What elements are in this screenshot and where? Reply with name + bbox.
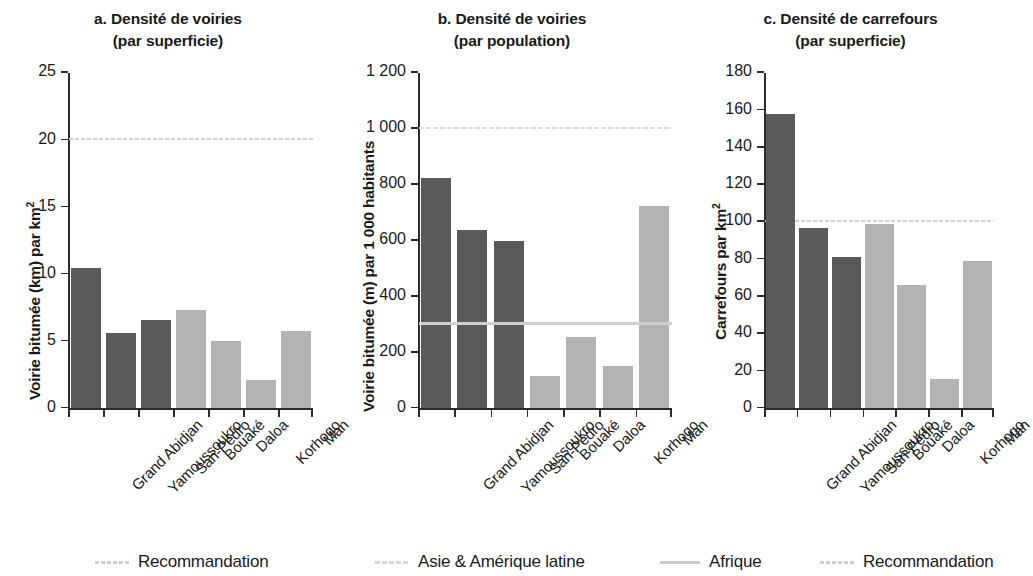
- panel-c-x-tick: [895, 410, 897, 417]
- panel-c-title-line2: (par superficie): [688, 30, 1013, 52]
- panel-c-y-tick: 160: [757, 109, 764, 111]
- bar[interactable]: [799, 228, 828, 409]
- panel-a-plot-area: 0510152025: [68, 73, 313, 410]
- legend-item[interactable]: Afrique: [660, 552, 761, 572]
- panel-b-y-tick: 200: [411, 351, 418, 353]
- panel-b-y-tick: 600: [411, 239, 418, 241]
- panel-b-y-tick: 0: [411, 407, 418, 409]
- panel-c-y-tick: 140: [757, 146, 764, 148]
- bar[interactable]: [421, 178, 451, 409]
- bar[interactable]: [246, 380, 276, 408]
- panel-b-reference-line-afrique: [419, 322, 672, 325]
- panel-b-title: b. Densité de voiries (par population): [336, 8, 688, 52]
- panel-c-y-tick-label: 120: [725, 174, 752, 192]
- legend-item-label: Afrique: [709, 552, 761, 572]
- panel-b-x-tick: [563, 410, 565, 417]
- panel-b-reference-line-asie: [419, 127, 672, 129]
- panel-a-y-tick-label: 10: [38, 263, 56, 281]
- panel-a-title: a. Densité de voiries (par superficie): [0, 8, 336, 52]
- panel-b-y-axis-label: Voirie bitumée (m) par 1 000 habitants: [360, 141, 378, 412]
- panel-c-x-tick: [797, 410, 799, 417]
- panel-b-title-line1: b. Densité de voiries: [438, 10, 587, 27]
- panel-c-y-tick: 0: [757, 407, 764, 409]
- panel-c-y-tick-label: 40: [734, 323, 752, 341]
- panel-a-y-tick: 5: [61, 340, 68, 342]
- panel-c-y-tick: 60: [757, 295, 764, 297]
- panel-b-x-tick: [454, 410, 456, 417]
- panel-c-y-tick-label: 0: [743, 397, 752, 415]
- panel-b-x-tick: [527, 410, 529, 417]
- panel-c-y-tick-label: 60: [734, 286, 752, 304]
- legend-item[interactable]: Recommandation: [820, 552, 993, 572]
- panel-b-y-tick-label: 800: [379, 174, 406, 192]
- panel-b-plot-area: 02004006008001 0001 200: [418, 73, 672, 410]
- bar[interactable]: [494, 241, 524, 409]
- panel-b-y-tick-label: 1 200: [366, 62, 406, 80]
- panel-a-y-tick-label: 15: [38, 196, 56, 214]
- bar[interactable]: [530, 376, 560, 408]
- panel-a-reference-line-reco: [69, 138, 313, 140]
- panel-c-y-tick: 120: [757, 183, 764, 185]
- panel-b-y-tick-label: 600: [379, 230, 406, 248]
- bar[interactable]: [766, 114, 795, 408]
- panel-b-y-tick-label: 1 000: [366, 118, 406, 136]
- panel-c-y-tick-label: 180: [725, 62, 752, 80]
- legend-item-label: Recommandation: [863, 552, 993, 572]
- bar[interactable]: [963, 261, 992, 408]
- bar[interactable]: [281, 331, 311, 409]
- legend-line-swatch-icon: [660, 561, 700, 564]
- panel-c-y-tick: 80: [757, 258, 764, 260]
- panel-a-y-tick: 20: [61, 139, 68, 141]
- panel-b-y-tick: 800: [411, 183, 418, 185]
- panel-a-y-tick-label: 5: [47, 330, 56, 348]
- chart-panel-b: b. Densité de voiries (par population) V…: [336, 0, 688, 530]
- panel-b-y-axis: [418, 73, 420, 410]
- panel-a-x-tick: [208, 410, 210, 417]
- panel-b-x-tick: [670, 410, 672, 417]
- panel-c-x-tick: [863, 410, 865, 417]
- bar[interactable]: [865, 224, 894, 408]
- bar[interactable]: [832, 257, 861, 408]
- legend-item[interactable]: Recommandation: [95, 552, 268, 572]
- panel-c-title: c. Densité de carrefours (par superficie…: [688, 8, 1013, 52]
- bar[interactable]: [897, 285, 926, 408]
- panel-b-y-tick: 1 200: [411, 71, 418, 73]
- bar[interactable]: [141, 320, 171, 409]
- panel-c-y-axis-label-exponent: 2: [710, 203, 722, 209]
- panel-c-reference-line-reco: [765, 220, 994, 222]
- legend-item-label: Recommandation: [138, 552, 268, 572]
- legend-item[interactable]: Asie & Amérique latine: [375, 552, 585, 572]
- bar[interactable]: [566, 337, 596, 408]
- panel-c-title-line1: c. Densité de carrefours: [763, 10, 937, 27]
- panel-b-x-axis: [418, 408, 672, 410]
- bar[interactable]: [176, 310, 206, 408]
- bar[interactable]: [457, 230, 487, 409]
- bar[interactable]: [603, 366, 633, 408]
- panel-a-y-axis: [68, 73, 70, 410]
- panel-a-x-tick: [68, 410, 70, 417]
- bar[interactable]: [106, 333, 136, 408]
- panel-c-y-tick-label: 20: [734, 360, 752, 378]
- panel-a-y-axis-label: Voirie bitumée (km) par km2: [26, 202, 44, 400]
- panel-a-y-tick-label: 20: [38, 129, 56, 147]
- panel-b-y-axis-label-text: Voirie bitumée (m) par 1 000 habitants: [360, 141, 377, 412]
- panel-a-x-tick: [173, 410, 175, 417]
- panel-a-title-line1: a. Densité de voiries: [94, 10, 242, 27]
- figure-legend: RecommandationAsie & Amérique latineAfri…: [0, 544, 1013, 576]
- panel-a-y-tick-label: 0: [47, 397, 56, 415]
- bar[interactable]: [71, 268, 101, 409]
- panel-b-x-tick: [491, 410, 493, 417]
- panel-a-x-tick: [138, 410, 140, 417]
- bar[interactable]: [211, 341, 241, 408]
- panel-a-y-tick: 25: [61, 71, 68, 73]
- panel-b-y-tick: 400: [411, 295, 418, 297]
- panel-a-x-axis: [68, 408, 313, 410]
- panel-c-y-tick-label: 100: [725, 211, 752, 229]
- panel-a-title-line2: (par superficie): [0, 30, 336, 52]
- bar[interactable]: [930, 379, 959, 409]
- bar[interactable]: [639, 206, 669, 409]
- panel-a-y-tick-label: 25: [38, 62, 56, 80]
- panel-b-y-tick-label: 200: [379, 342, 406, 360]
- panel-b-y-tick-label: 0: [397, 397, 406, 415]
- panel-c-y-tick-label: 160: [725, 99, 752, 117]
